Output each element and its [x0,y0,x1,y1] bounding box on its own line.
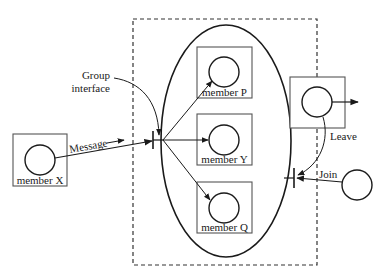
group-communication-diagram: member P member Y member Q member X Mess… [0,0,385,280]
member-p-process-icon [209,57,239,87]
member-x-label: member X [17,174,64,186]
leaving-member-process-icon [302,87,332,117]
group-interface-label-line2: interface [72,82,111,94]
member-q-process-icon [209,193,239,223]
member-q-label: member Q [201,221,248,233]
member-x: member X [13,134,67,186]
group-interface-label-line1: Group [82,69,111,81]
member-y-label: member Y [201,153,247,165]
member-p: member P [197,47,252,98]
message-direction-arrow [107,140,124,143]
member-q: member Q [197,182,252,233]
member-p-label: member P [202,86,247,98]
joining-member-process-icon [342,170,372,200]
join-label: Join [319,168,338,180]
member-x-process-icon [25,145,55,175]
leave-label: Leave [330,130,357,142]
group-interface-pointer [114,78,159,135]
member-y-process-icon [209,125,239,155]
